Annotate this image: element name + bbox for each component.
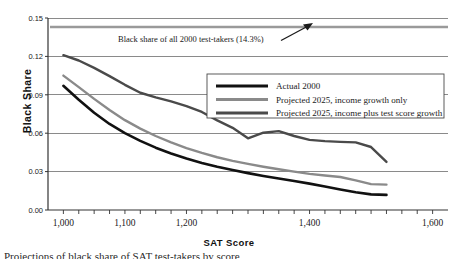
x-tick-label: 1,400: [299, 218, 321, 228]
y-tick-label: 0.15: [28, 14, 43, 23]
x-tick-label: 1,200: [176, 218, 198, 228]
x-axis-title: SAT Score: [0, 237, 458, 248]
x-ticks: [63, 210, 432, 214]
x-tick-label: 1,100: [114, 218, 136, 228]
legend-label-1: Projected 2025, income growth only: [276, 95, 408, 105]
x-tick-labels: 1,0001,1001,2001,4001,600: [53, 218, 444, 228]
sat-black-share-line-chart: 0.000.030.060.090.120.15 1,0001,1001,200…: [0, 0, 458, 259]
legend: Actual 2000Projected 2025, income growth…: [207, 74, 444, 118]
chart-figure: 0.000.030.060.090.120.15 1,0001,1001,200…: [0, 0, 458, 259]
y-tick-label: 0.00: [28, 206, 43, 215]
annotation-label: Black share of all 2000 test-takers (14.…: [118, 34, 264, 44]
legend-label-2: Projected 2025, income plus test score g…: [276, 108, 443, 118]
y-axis-title: Black Share: [21, 56, 33, 146]
legend-label-0: Actual 2000: [276, 81, 321, 91]
figure-caption: Projections of black share of SAT test-t…: [4, 250, 458, 259]
y-tick-label: 0.03: [28, 167, 43, 176]
x-tick-label: 1,600: [422, 218, 444, 228]
x-tick-label: 1,000: [53, 218, 75, 228]
